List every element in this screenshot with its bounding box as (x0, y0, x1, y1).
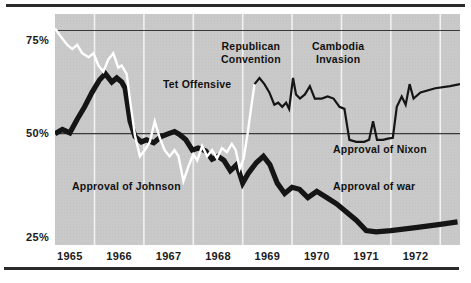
annotation-approval-of-johnson: Approval of Johnson (72, 180, 181, 193)
annotation-cambodia-invasion-line1: Cambodia (312, 40, 364, 53)
annotation-republican-convention-line1: Republican (221, 40, 281, 53)
x-tick-label-1971: 1971 (341, 250, 391, 262)
bottom-rule (4, 267, 459, 270)
chart-figure: 75% 50% 25% 1965196619671968196919701971… (0, 0, 471, 283)
y-tick-label-25: 25% (9, 231, 49, 243)
x-tick-label-1967: 1967 (144, 250, 194, 262)
annotation-approval-of-nixon: Approval of Nixon (333, 143, 427, 156)
top-rule (6, 4, 465, 7)
x-tick-label-1965: 1965 (45, 250, 95, 262)
annotation-cambodia-invasion-line2: Invasion (312, 53, 364, 66)
x-tick-label-1968: 1968 (193, 250, 243, 262)
annotation-tet-offensive: Tet Offensive (163, 78, 231, 91)
y-tick-label-75: 75% (9, 34, 49, 46)
annotation-approval-of-war: Approval of war (333, 180, 415, 193)
x-tick-label-1966: 1966 (94, 250, 144, 262)
annotation-cambodia-invasion: Cambodia Invasion (312, 40, 364, 65)
annotation-republican-convention-line2: Convention (221, 53, 281, 66)
y-tick-label-50: 50% (9, 127, 49, 139)
annotation-republican-convention: Republican Convention (221, 40, 281, 65)
x-tick-label-1972: 1972 (391, 250, 441, 262)
x-tick-label-1969: 1969 (242, 250, 292, 262)
x-tick-label-1970: 1970 (292, 250, 342, 262)
